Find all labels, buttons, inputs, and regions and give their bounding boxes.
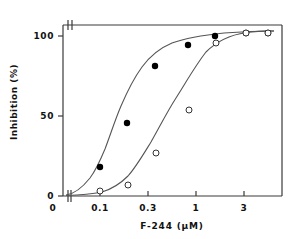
y-tick-label-50: 50 — [14, 111, 54, 121]
data-point-open — [265, 30, 271, 36]
y-tick-label-100: 100 — [14, 31, 54, 41]
x-tick-label-0-3: 0.3 — [128, 203, 168, 213]
y-axis-ticks — [58, 36, 63, 196]
x-tick-label-0: 0 — [33, 203, 73, 213]
data-point-open — [125, 182, 131, 188]
x-axis-title: F-244 (µM) — [60, 221, 284, 231]
data-point-open — [153, 150, 159, 156]
markers-filled-series — [97, 30, 271, 170]
data-point-open — [186, 107, 192, 113]
data-point-filled — [124, 120, 130, 126]
data-point-open — [243, 30, 249, 36]
y-tick-label-0: 0 — [14, 191, 54, 201]
plot-frame — [63, 25, 282, 196]
data-point-filled — [152, 63, 158, 69]
x-tick-label-0-1: 0.1 — [80, 203, 120, 213]
y-axis-title: Inhibition (%) — [9, 54, 19, 150]
data-point-filled — [97, 164, 103, 170]
data-point-filled — [185, 42, 191, 48]
x-tick-label-1: 1 — [176, 203, 216, 213]
chart-figure: 100 50 0 0 0.1 0.3 1 3 Inhibition (%) F-… — [0, 0, 294, 239]
curve-open-series — [66, 31, 274, 196]
x-tick-label-3: 3 — [224, 203, 264, 213]
data-point-filled — [212, 33, 218, 39]
curve-filled-series — [66, 31, 274, 195]
x-axis-ticks — [100, 191, 244, 196]
data-point-open — [213, 40, 219, 46]
data-point-open — [97, 188, 103, 194]
markers-open-series — [97, 30, 271, 194]
